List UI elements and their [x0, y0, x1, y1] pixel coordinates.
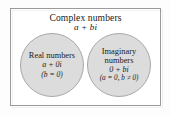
complex-numbers-title-group: Complex numbers a + bi: [11, 13, 160, 33]
real-numbers-formula: a + 0i: [42, 61, 62, 70]
complex-numbers-outer-set: Complex numbers a + bi Real numbers a + …: [10, 8, 161, 106]
complex-number-venn-diagram: Complex numbers a + bi Real numbers a + …: [0, 0, 171, 116]
complex-numbers-formula: a + bi: [11, 23, 160, 33]
imaginary-numbers-condition: (a = 0, b ≠ 0): [100, 75, 139, 83]
imaginary-numbers-label-line2: numbers: [105, 56, 134, 65]
real-numbers-label: Real numbers: [29, 51, 75, 60]
imaginary-numbers-label-line1: Imaginary: [102, 47, 136, 56]
imaginary-numbers-circle: Imaginary numbers 0 + bi (a = 0, b ≠ 0): [87, 33, 151, 97]
real-numbers-condition: (b = 0): [41, 71, 63, 79]
real-numbers-circle: Real numbers a + 0i (b = 0): [20, 33, 84, 97]
